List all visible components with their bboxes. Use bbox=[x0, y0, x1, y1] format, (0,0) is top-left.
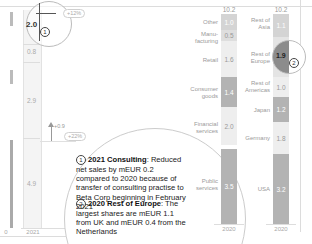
category-label: Rest of Europe bbox=[232, 51, 270, 65]
marker-2: 2 bbox=[76, 199, 86, 209]
note-title: 2021 Consulting bbox=[88, 155, 147, 164]
industry-seg-manufacturing: 0.5 bbox=[221, 30, 237, 41]
segment-value: 2.9 bbox=[24, 97, 39, 104]
baseline bbox=[214, 224, 244, 225]
marker-1: 1 bbox=[40, 27, 50, 37]
note-title: 2020 Rest of Europe bbox=[88, 199, 161, 208]
category-label: Manu- facturing bbox=[180, 31, 218, 45]
segment-value: 3.2 bbox=[276, 186, 285, 193]
segment-value: 2.0 bbox=[224, 123, 233, 130]
category-label: Rest of Americas bbox=[232, 80, 270, 94]
segment-value: 1.2 bbox=[276, 106, 285, 113]
category-label: Germany bbox=[232, 135, 270, 142]
category-label: Financial services bbox=[180, 121, 218, 135]
growth-badge-bottom: +22% bbox=[64, 132, 86, 141]
segment-value: 1.8 bbox=[276, 135, 285, 142]
left-edge-bar-bottom bbox=[10, 140, 13, 228]
delta-arrow-shaft bbox=[51, 127, 52, 141]
year-label-2020: 2020 bbox=[215, 226, 243, 232]
category-label: USA bbox=[232, 186, 270, 193]
year-label-2021: 2021 bbox=[18, 229, 48, 235]
region-seg-japan: 1.2 bbox=[273, 97, 289, 122]
growth-badge-top: +12% bbox=[63, 9, 85, 18]
left-edge-bar-top bbox=[10, 12, 13, 26]
category-label: Japan bbox=[232, 107, 270, 114]
industry-total: 10.2 bbox=[220, 6, 238, 13]
consulting-value: 2.0 bbox=[26, 20, 37, 29]
marker-2: 2 bbox=[289, 58, 299, 68]
segment-value: 1.0 bbox=[276, 84, 285, 91]
left-edge-bar-mid bbox=[10, 70, 13, 84]
region-seg-rest-of-asia: 1.1 bbox=[273, 14, 289, 37]
connector-line bbox=[40, 141, 76, 142]
segment-value: 0.5 bbox=[224, 32, 233, 39]
note-2: 22020 Rest of Europe: The largest shares… bbox=[76, 199, 186, 237]
category-label: Retail bbox=[180, 57, 218, 64]
segment-value: 1.1 bbox=[276, 22, 285, 29]
segment-value: 0.8 bbox=[24, 48, 39, 55]
segment-value: 4.9 bbox=[24, 180, 39, 187]
right-border bbox=[300, 0, 301, 232]
category-label: Other bbox=[180, 19, 218, 26]
consulting-marker: 1 bbox=[40, 20, 52, 38]
baseline bbox=[266, 224, 296, 225]
category-label: Consumer goods bbox=[180, 86, 218, 100]
region-seg-rest-of-americas: 1.0 bbox=[273, 77, 289, 97]
region-seg-usa: 3.2 bbox=[273, 154, 289, 224]
region-total: 10.2 bbox=[272, 6, 290, 13]
seg-divider bbox=[23, 62, 40, 63]
category-label: Rest of Asia bbox=[232, 17, 270, 31]
magnifier-crosshair bbox=[36, 13, 56, 14]
year-label-2020: 2020 bbox=[267, 226, 295, 232]
seg-divider bbox=[23, 138, 40, 139]
rest-of-europe-marker: 2 bbox=[289, 51, 301, 69]
delta-value: +0.9 bbox=[54, 123, 65, 129]
axis-tick-label: 0 bbox=[0, 229, 12, 235]
category-label: Public services bbox=[180, 178, 218, 192]
region-seg-germany: 1.8 bbox=[273, 122, 289, 154]
marker-1: 1 bbox=[76, 155, 86, 165]
rest-of-europe-value: 1.9 bbox=[276, 52, 286, 59]
